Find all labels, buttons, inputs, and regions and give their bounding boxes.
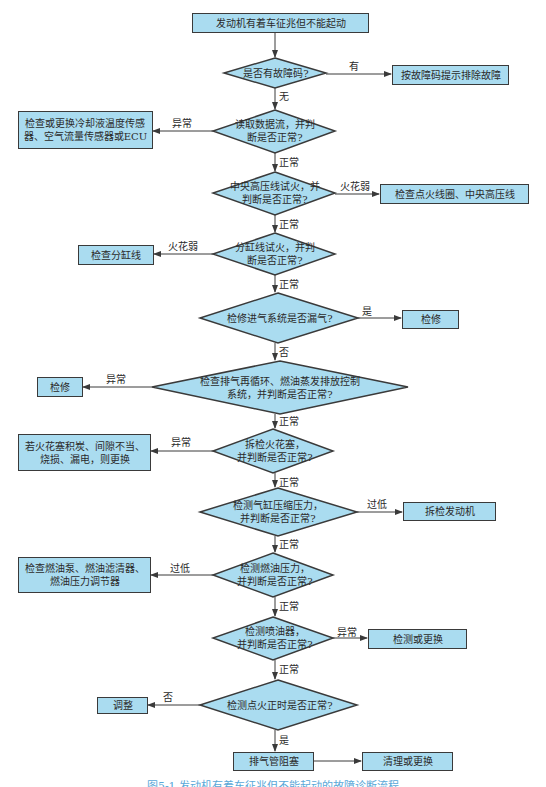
edge-label-d9-normal: 正常 [279, 601, 299, 613]
action-box-sensors-ecu: 检查或更换冷却液温度传感 器、空气流量传感器或ECU [18, 111, 153, 149]
edge-label-d7-abnormal: 异常 [171, 437, 191, 449]
edge-label-d6-normal: 正常 [279, 416, 299, 428]
edge-label-d2-normal: 正常 [279, 157, 299, 169]
decision-text-9: 检测燃油压力， 并判断是否正常? [225, 559, 325, 591]
edge-label-d3-weak: 火花弱 [340, 181, 370, 193]
action-box-repair-egr: 检修 [37, 377, 83, 397]
edge-label-d11-yes: 是 [279, 735, 289, 747]
edge-label-d1-no: 无 [279, 91, 289, 103]
decision-text-8: 检测气缸压缩压力， 并判断是否正常? [220, 496, 336, 528]
decision-text-4: 分缸线试火，并判 断是否正常? [225, 238, 325, 270]
decision-text-6: 检查排气再循环、燃油蒸发排放控制 系统，并判断是否正常? [180, 372, 380, 404]
action-box-clean-replace: 清理或更换 [362, 752, 453, 771]
edge-label-d5-no: 否 [279, 347, 289, 359]
edge-label-d7-normal: 正常 [279, 477, 299, 489]
decision-text-3: 中央高压线试火，并 判断是否正常? [220, 177, 330, 209]
edge-label-d10-abnormal: 异常 [337, 627, 357, 639]
edge-label-d10-normal: 正常 [279, 664, 299, 676]
decision-text-11: 检测点火正时是否正常? [215, 695, 345, 715]
decision-text-1: 是否有故障码? [230, 60, 322, 86]
decision-text-5: 检修进气系统是否漏气? [215, 308, 345, 328]
action-box-spark-plug: 若火花塞积炭、间隙不当、 烧损、漏电，则更换 [18, 434, 151, 471]
edge-label-d6-abnormal: 异常 [106, 374, 126, 386]
action-box-disassemble-engine: 拆检发动机 [403, 502, 496, 521]
edge-label-d11-no: 否 [163, 692, 173, 704]
start-box: 发动机有着车征兆但不能起动 [192, 13, 369, 33]
action-box-ignition-coil: 检查点火线圈、中央高压线 [380, 184, 529, 204]
edge-label-d3-normal: 正常 [279, 219, 299, 231]
decision-text-2: 读取数据流，并判 断是否正常? [225, 115, 325, 147]
action-box-cylinder-wire: 检查分缸线 [78, 245, 154, 265]
figure-caption: 图5-1 发动机有着车征兆但不能起动的故障诊断流程 [140, 776, 406, 787]
edge-label-d1-yes: 有 [349, 61, 359, 73]
action-box-fault-code: 按故障码提示排除故障 [392, 65, 509, 85]
edge-label-d9-low: 过低 [170, 563, 190, 575]
edge-label-d8-low: 过低 [367, 499, 387, 511]
action-box-injector: 检测或更换 [368, 629, 467, 649]
edge-label-d5-yes: 是 [362, 306, 372, 318]
action-box-exhaust-blocked: 排气管阻塞 [233, 752, 314, 771]
edge-label-d2-abnormal: 异常 [172, 118, 192, 130]
edge-label-d8-normal: 正常 [279, 539, 299, 551]
action-box-fuel-pump: 检查燃油泵、燃油滤清器、 燃油压力调节器 [18, 557, 151, 593]
edge-label-d4-weak: 火花弱 [168, 241, 198, 253]
decision-text-7: 拆检火花塞， 并判断是否正常? [225, 435, 325, 467]
action-box-repair-intake: 检修 [402, 310, 459, 329]
edge-label-d4-normal: 正常 [279, 279, 299, 291]
decision-text-10: 检测喷油器， 并判断是否正常? [225, 622, 325, 654]
action-box-adjust: 调整 [97, 697, 148, 714]
